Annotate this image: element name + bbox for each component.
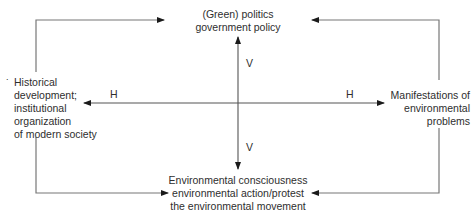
node-politics: (Green) politics government policy bbox=[174, 8, 302, 34]
diagram-canvas: (Green) politics government policy Histo… bbox=[0, 0, 476, 215]
node-historical-line: institutional bbox=[14, 102, 97, 115]
node-historical-line: Historical bbox=[14, 76, 97, 89]
node-movement-line: the environmental movement bbox=[158, 200, 318, 213]
node-movement-line: Environmental consciousness bbox=[158, 174, 318, 187]
arrow-left-to-top bbox=[36, 20, 164, 72]
node-problems-line: problems bbox=[391, 115, 470, 128]
node-movement-line: environmental action/protest bbox=[158, 187, 318, 200]
node-historical-line: organization bbox=[14, 115, 97, 128]
node-politics-line: (Green) politics bbox=[174, 8, 302, 21]
node-environmental-problems: Manifestations of environmental problems bbox=[391, 89, 470, 128]
axis-label-h-right: H bbox=[346, 88, 354, 100]
axis-label-v-top: V bbox=[246, 57, 253, 69]
stray-dot: . bbox=[6, 72, 9, 82]
axis-label-h-left: H bbox=[110, 88, 118, 100]
axis-label-v-bottom: V bbox=[246, 141, 253, 153]
node-historical-line: development; bbox=[14, 89, 97, 102]
node-politics-line: government policy bbox=[174, 21, 302, 34]
arrow-right-to-bottom bbox=[312, 128, 439, 193]
arrow-right-to-top bbox=[312, 20, 439, 80]
node-historical-development: Historical development; institutional or… bbox=[14, 76, 97, 141]
node-environmental-movement: Environmental consciousness environmenta… bbox=[158, 174, 318, 213]
node-problems-line: environmental bbox=[391, 102, 470, 115]
node-historical-line: of modern society bbox=[14, 128, 97, 141]
node-problems-line: Manifestations of bbox=[391, 89, 470, 102]
arrow-left-to-bottom bbox=[36, 137, 168, 193]
